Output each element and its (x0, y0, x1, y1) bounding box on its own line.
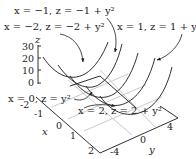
label-x-neg2: x = −2, z = −2 + y² (4, 21, 105, 32)
label-x-pos2: x = 2, z = 2 + y² (78, 105, 162, 116)
surface-trace-diagram: z 30 20 10 0 -2 -1 0 1 2 x -4 0 4 y x = … (0, 0, 196, 159)
z-tick-20: 20 (22, 53, 34, 64)
x-tick-0: 0 (56, 120, 62, 131)
x-tick-2: 2 (88, 145, 94, 156)
y-tick-4: 4 (167, 121, 173, 132)
y-axis-label: y (148, 144, 155, 155)
label-x-neg1: x = −1, z = −1 + y² (14, 5, 115, 16)
x-tick-1: 1 (70, 130, 76, 141)
x-tick-neg1: -1 (34, 108, 43, 119)
label-x-zero: x = 0, z = y² (8, 93, 71, 104)
trace-x-neg2 (43, 42, 108, 77)
x-axis-label: x (42, 126, 48, 137)
z-tick-10: 10 (22, 65, 34, 76)
z-axis-label: z (34, 34, 41, 45)
y-tick-0: 0 (140, 134, 146, 145)
z-axis (38, 45, 41, 84)
z-tick-0: 0 (28, 77, 34, 88)
trace-x-1 (86, 58, 155, 105)
label-x-pos1: x = 1, z = 1 + y² (117, 21, 196, 32)
y-tick-neg4: -4 (110, 146, 119, 157)
z-tick-30: 30 (22, 41, 34, 52)
